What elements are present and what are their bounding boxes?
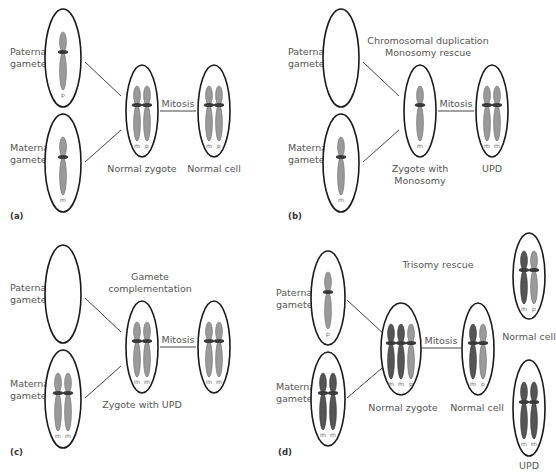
centromere-icon xyxy=(478,341,488,345)
outcome-normal-caption: Normal cell xyxy=(502,331,556,342)
result-cell: mp xyxy=(462,303,494,395)
parent-origin-tag: m xyxy=(206,142,212,149)
parent-origin-tag: p xyxy=(532,305,536,313)
parent-origin-tag: m xyxy=(60,196,66,203)
centromere-icon xyxy=(415,103,425,107)
parent-origin-tag: m xyxy=(388,380,394,387)
panel-label: (d) xyxy=(278,447,292,457)
parent-origin-tag: m xyxy=(144,378,150,385)
parent-origin-tag: m xyxy=(206,378,212,385)
connector-maternal xyxy=(85,366,121,398)
parent-origin-tag: m xyxy=(398,380,404,387)
centromere-icon xyxy=(492,103,502,107)
centromere-icon xyxy=(519,268,529,272)
parent-origin-tag: p xyxy=(409,380,413,388)
connector-paternal xyxy=(347,300,385,335)
parent-origin-tag: m xyxy=(65,432,71,439)
centromere-icon xyxy=(406,341,416,345)
centromere-icon xyxy=(214,339,224,343)
parent-origin-tag: m xyxy=(470,380,476,387)
mechanism-title: Trisomy rescue xyxy=(401,259,473,270)
parent-origin-tag: m xyxy=(134,378,140,385)
centromere-icon xyxy=(323,290,333,294)
parent-origin-tag: m xyxy=(55,432,61,439)
connector-maternal xyxy=(85,130,121,162)
panel-label: (b) xyxy=(288,211,302,221)
zygote-caption: Zygote with UPD xyxy=(102,399,182,410)
mechanism-title: Monosomy rescue xyxy=(385,47,471,58)
paternal-gamete-label: Paternal xyxy=(10,46,49,57)
paternal-gamete-label: gamete xyxy=(10,294,47,305)
parent-origin-tag: m xyxy=(338,196,344,203)
centromere-icon xyxy=(53,391,63,395)
mechanism-title: complementation xyxy=(108,283,192,294)
paternal-gamete-cell: p xyxy=(311,251,345,345)
cell-outline xyxy=(462,303,494,395)
cell-outline xyxy=(311,352,345,446)
paternal-gamete-cell xyxy=(323,9,359,107)
panel-c: PaternalgameteMaternalgametemmmmmmMitosi… xyxy=(10,245,230,457)
maternal-gamete-label: gamete xyxy=(276,393,313,404)
maternal-gamete-label: gamete xyxy=(10,390,47,401)
centromere-icon xyxy=(132,103,142,107)
centromere-icon xyxy=(214,103,224,107)
parent-origin-tag: p xyxy=(145,142,149,150)
parent-origin-tag: m xyxy=(320,431,326,438)
result-cell: mm xyxy=(198,301,230,393)
centromere-icon xyxy=(132,339,142,343)
upd-mechanisms-diagram: PaternalgameteMaternalgametepmmpmpMitosi… xyxy=(0,0,556,472)
centromere-icon xyxy=(468,341,478,345)
paternal-gamete-label: Paternal xyxy=(288,46,327,57)
maternal-gamete-cell: m xyxy=(323,114,359,212)
parent-origin-tag: m xyxy=(494,142,500,149)
outcome-normal-cell: mp xyxy=(513,233,545,319)
zygote-caption: Zygote with xyxy=(392,163,449,174)
centromere-icon xyxy=(519,400,529,404)
cell-outline xyxy=(323,9,359,107)
mechanism-title: Chromosomal duplication xyxy=(367,35,488,46)
paternal-gamete-label: gamete xyxy=(288,58,325,69)
centromere-icon xyxy=(336,155,346,159)
panel-label: (c) xyxy=(10,447,23,457)
parent-origin-tag: m xyxy=(134,142,140,149)
paternal-gamete-label: gamete xyxy=(10,58,47,69)
parent-origin-tag: p xyxy=(61,91,65,99)
parent-origin-tag: m xyxy=(521,440,527,447)
result-caption: UPD xyxy=(482,163,502,174)
parent-origin-tag: m xyxy=(531,440,537,447)
result-caption: Normal cell xyxy=(187,163,241,174)
cell-outline xyxy=(45,245,81,343)
connector-paternal xyxy=(85,62,121,96)
zygote-caption: Normal zygote xyxy=(368,402,438,413)
parent-origin-tag: m xyxy=(330,431,336,438)
parent-origin-tag: m xyxy=(484,142,490,149)
centromere-icon xyxy=(529,268,539,272)
centromere-icon xyxy=(204,103,214,107)
result-cell: mm xyxy=(476,65,508,157)
centromere-icon xyxy=(58,50,68,54)
maternal-gamete-cell: mm xyxy=(45,350,81,448)
zygote-cell: mmp xyxy=(381,303,421,395)
parent-origin-tag: m xyxy=(417,142,423,149)
paternal-gamete-label: Paternal xyxy=(10,282,49,293)
paternal-gamete-label: gamete xyxy=(276,299,313,310)
centromere-icon xyxy=(482,103,492,107)
panel-d: PaternalgameteMaternalgametepmmmmpmpMito… xyxy=(276,233,556,471)
zygote-cell: mp xyxy=(126,65,158,157)
panel-b: PaternalgameteMaternalgametemmmmMitosisZ… xyxy=(288,9,508,221)
zygote-cell: mm xyxy=(126,301,158,393)
cell-outline xyxy=(513,233,545,319)
outcome-upd-caption: UPD xyxy=(519,460,539,471)
connector-maternal xyxy=(347,368,382,398)
paternal-gamete-label: Paternal xyxy=(276,287,315,298)
centromere-icon xyxy=(396,341,406,345)
centromere-icon xyxy=(328,391,338,395)
cell-outline xyxy=(476,65,508,157)
cell-outline xyxy=(198,65,230,157)
maternal-gamete-label: gamete xyxy=(288,154,325,165)
parent-origin-tag: p xyxy=(326,330,330,338)
parent-origin-tag: m xyxy=(521,305,527,312)
centromere-icon xyxy=(529,400,539,404)
maternal-gamete-cell: mm xyxy=(311,352,345,446)
zygote-caption: Normal zygote xyxy=(107,163,177,174)
